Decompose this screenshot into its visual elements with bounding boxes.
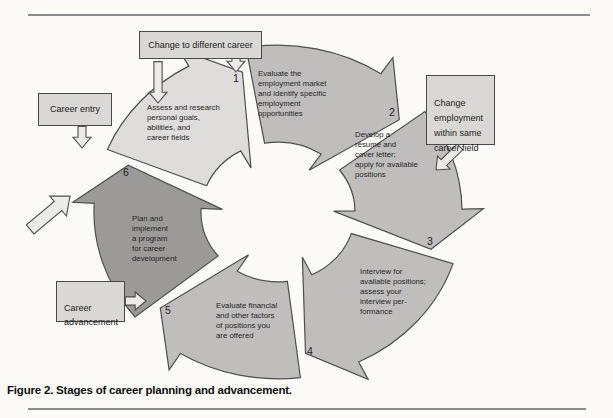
- callout-change-employment-same-field: Change employment within same career fie…: [426, 75, 495, 145]
- step-3-label: Develop a résumé and cover letter; apply…: [355, 130, 418, 180]
- callout-change-to-different-career: Change to different career: [139, 31, 262, 59]
- callout-career-entry: Career entry: [38, 93, 112, 126]
- step-2-number: 2: [389, 106, 395, 118]
- callout-career-advancement-label: Career advancement: [64, 303, 118, 327]
- pointer-career-entry: [73, 126, 91, 148]
- figure-caption: Figure 2. Stages of career planning and …: [7, 384, 292, 396]
- figure-page: Assess and research personal goals, abil…: [0, 0, 613, 418]
- bottom-rule: [28, 408, 586, 410]
- step-1-label: Assess and research personal goals, abil…: [147, 103, 220, 143]
- step-2-label: Evaluate the employment market and ident…: [258, 69, 326, 119]
- step-4-number: 4: [307, 345, 313, 357]
- cycle-entry-arrow: [26, 196, 70, 234]
- step-6-number: 6: [123, 166, 129, 178]
- callout-change-to-different-career-label: Change to different career: [148, 39, 252, 52]
- callout-career-advancement: Career advancement: [56, 281, 125, 322]
- step-6-label: Plan and implement a program for career …: [132, 214, 177, 264]
- step-5-label: Evaluate financial and other factors of …: [216, 301, 277, 341]
- step-4-label: Interview for available positions; asses…: [360, 267, 426, 317]
- callout-career-entry-label: Career entry: [50, 103, 100, 116]
- step-3-number: 3: [427, 235, 433, 247]
- step-5-number: 5: [165, 304, 171, 316]
- step-1-number: 1: [233, 72, 239, 84]
- callout-change-employment-same-field-label: Change employment within same career fie…: [434, 98, 483, 153]
